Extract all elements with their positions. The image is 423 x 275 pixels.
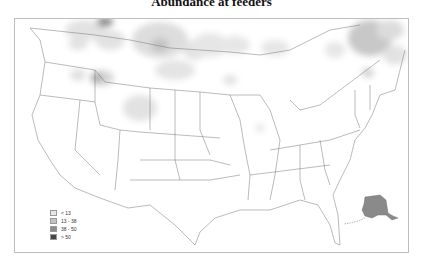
legend-label: < 13 (61, 210, 71, 216)
legend-label: 13 - 38 (61, 218, 77, 224)
map-legend: < 13 13 - 38 38 - 50 > 50 (50, 209, 77, 241)
legend-item: 38 - 50 (50, 225, 77, 233)
legend-label: > 50 (61, 234, 71, 240)
legend-swatch-gt50 (50, 234, 57, 240)
abundance-blobs (65, 17, 407, 132)
legend-swatch-lt13 (50, 210, 57, 216)
legend-swatch-38-50 (50, 226, 57, 232)
legend-swatch-13-38 (50, 218, 57, 224)
legend-item: 13 - 38 (50, 217, 77, 225)
alaska-inset (344, 195, 398, 224)
legend-item: > 50 (50, 233, 77, 241)
state-borders (30, 25, 405, 245)
legend-label: 38 - 50 (61, 226, 77, 232)
legend-item: < 13 (50, 209, 77, 217)
